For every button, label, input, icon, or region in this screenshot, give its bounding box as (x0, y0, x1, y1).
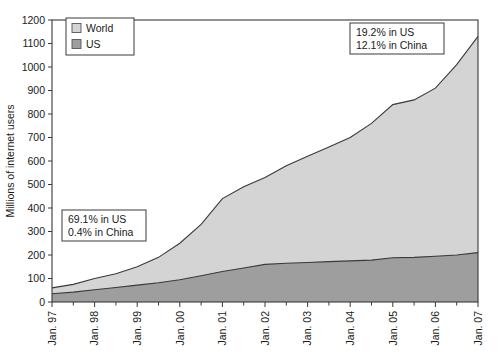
annotation-right-line-1: 19.2% in US (356, 26, 414, 38)
x-tick-label: Jan. 01 (216, 311, 228, 346)
y-tick-label: 100 (27, 272, 45, 284)
y-tick-label: 1000 (22, 61, 46, 73)
y-tick-label: 600 (27, 155, 45, 167)
legend: World US (66, 18, 134, 55)
internet-users-area-chart: 0100200300400500600700800900100011001200… (0, 0, 499, 361)
y-tick-label: 800 (27, 108, 45, 120)
y-tick-label: 1200 (22, 14, 46, 26)
annotation-left: 69.1% in US 0.4% in China (62, 210, 146, 241)
y-tick-label: 700 (27, 131, 45, 143)
x-tick-label: Jan. 04 (344, 311, 356, 346)
y-axis-title: Millions of internet users (4, 104, 16, 217)
annotation-right: 19.2% in US 12.1% in China (350, 23, 444, 54)
y-tick-label: 200 (27, 249, 45, 261)
legend-swatch-us (72, 40, 81, 49)
x-tick-label: Jan. 99 (131, 311, 143, 346)
x-tick-label: Jan. 05 (387, 311, 399, 346)
x-tick-label: Jan. 97 (46, 311, 58, 346)
legend-label-us: US (86, 38, 101, 50)
legend-label-world: World (86, 22, 113, 34)
annotation-left-line-1: 69.1% in US (68, 213, 126, 225)
annotation-left-line-2: 0.4% in China (68, 226, 134, 238)
x-tick-label: Jan. 98 (88, 311, 100, 346)
y-tick-label: 0 (39, 296, 45, 308)
y-tick-label: 1100 (22, 37, 45, 49)
legend-swatch-world (72, 24, 81, 33)
y-tick-label: 400 (27, 202, 45, 214)
x-tick-label: Jan. 03 (301, 311, 313, 346)
y-tick-label: 500 (27, 178, 45, 190)
x-tick-label: Jan. 00 (174, 311, 186, 346)
x-tick-label: Jan. 06 (429, 311, 441, 346)
x-tick-label: Jan. 02 (259, 311, 271, 346)
chart-svg: 0100200300400500600700800900100011001200… (0, 0, 499, 361)
y-tick-label: 900 (27, 84, 45, 96)
x-tick-label: Jan. 07 (472, 311, 484, 346)
y-tick-label: 300 (27, 225, 45, 237)
annotation-right-line-2: 12.1% in China (356, 39, 427, 51)
